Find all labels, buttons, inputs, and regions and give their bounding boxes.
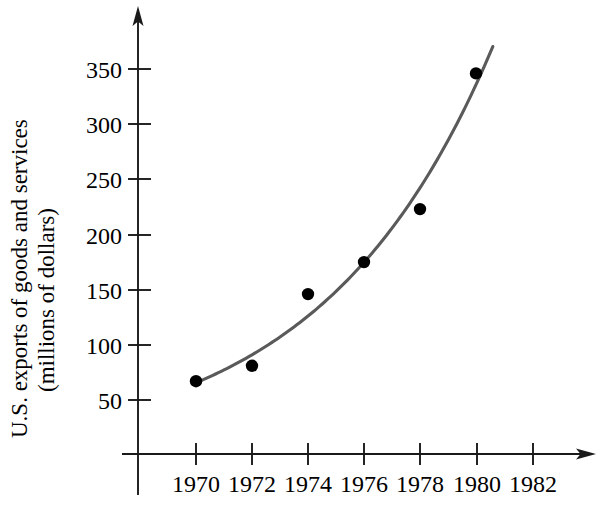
x-tick-1976: 1976 — [340, 443, 388, 497]
x-tick-label: 1980 — [453, 471, 501, 497]
y-tick-200: 200 — [86, 223, 151, 249]
y-tick-100: 100 — [86, 333, 151, 359]
x-axis-ticks: 1970 1972 1974 1976 1978 1980 — [172, 443, 557, 497]
y-tick-label: 150 — [86, 278, 122, 304]
exports-scatter-chart: U.S. exports of goods and services (mill… — [0, 0, 613, 522]
x-tick-label: 1972 — [228, 471, 276, 497]
y-axis-label-line2: (millions of dollars) — [34, 208, 59, 392]
data-point — [190, 375, 202, 387]
data-points-group — [190, 67, 482, 387]
x-tick-label: 1982 — [509, 471, 557, 497]
x-axis — [122, 449, 596, 460]
y-axis-label-line1: U.S. exports of goods and services — [7, 119, 32, 438]
y-axis-ticks: 350 300 250 200 150 100 — [86, 57, 151, 414]
y-tick-250: 250 — [86, 167, 151, 193]
x-tick-label: 1974 — [284, 471, 332, 497]
y-tick-label: 250 — [86, 167, 122, 193]
x-tick-label: 1970 — [172, 471, 220, 497]
data-point — [470, 67, 482, 79]
y-axis-label-group: U.S. exports of goods and services (mill… — [7, 119, 59, 438]
y-tick-label: 200 — [86, 223, 122, 249]
y-tick-50: 50 — [98, 388, 151, 414]
x-tick-1982: 1982 — [509, 443, 557, 497]
x-tick-1970: 1970 — [172, 443, 220, 497]
chart-page: U.S. exports of goods and services (mill… — [0, 0, 613, 522]
x-tick-1980: 1980 — [453, 443, 501, 497]
data-point — [414, 203, 426, 215]
y-tick-label: 50 — [98, 388, 122, 414]
x-tick-1978: 1978 — [396, 443, 444, 497]
y-tick-350: 350 — [86, 57, 151, 83]
y-axis — [133, 6, 144, 495]
y-tick-300: 300 — [86, 112, 151, 138]
y-tick-label: 350 — [86, 57, 122, 83]
x-tick-label: 1976 — [340, 471, 388, 497]
data-point — [246, 360, 258, 372]
x-tick-1972: 1972 — [228, 443, 276, 497]
trend-curve — [196, 47, 493, 383]
x-tick-label: 1978 — [396, 471, 444, 497]
x-tick-1974: 1974 — [284, 443, 332, 497]
data-point — [302, 288, 314, 300]
y-tick-150: 150 — [86, 278, 151, 304]
data-point — [358, 256, 370, 268]
y-tick-label: 300 — [86, 112, 122, 138]
y-tick-label: 100 — [86, 333, 122, 359]
